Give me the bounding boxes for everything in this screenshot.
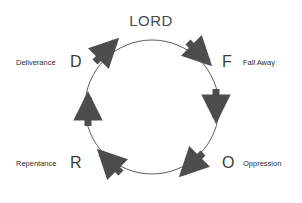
node-caption-fall-away: Fall Away	[243, 59, 275, 67]
node-caption-oppression: Oppression	[243, 160, 281, 168]
arrow-bottom-left	[101, 153, 121, 173]
cycle-diagram	[0, 0, 302, 203]
node-letter-deliverance: D	[70, 54, 82, 70]
node-caption-repentance: Repentance	[16, 160, 56, 168]
node-caption-deliverance: Deliverance	[16, 59, 56, 67]
node-letter-fall-away: F	[222, 54, 232, 70]
diagram-title: LORD	[0, 12, 302, 29]
node-letter-repentance: R	[70, 155, 82, 171]
node-letter-oppression: O	[222, 155, 234, 171]
diagram-canvas: LORD D Deliverance F Fall Away O Oppress…	[0, 0, 302, 203]
arrow-bottom-right	[183, 153, 203, 173]
